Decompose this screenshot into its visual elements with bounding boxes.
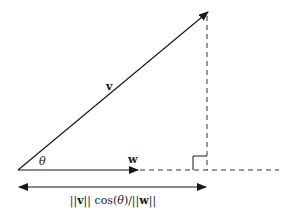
v-label: v	[105, 80, 113, 93]
w-label: w	[127, 153, 138, 166]
projection-diagram: v w θ ||v|| cos(θ)/||w||	[0, 0, 291, 214]
right-angle-marker	[193, 156, 207, 170]
projection-formula-label: ||v|| cos(θ)/||w||	[70, 194, 156, 208]
vector-v-arrow	[18, 12, 208, 170]
theta-label: θ	[39, 155, 46, 168]
